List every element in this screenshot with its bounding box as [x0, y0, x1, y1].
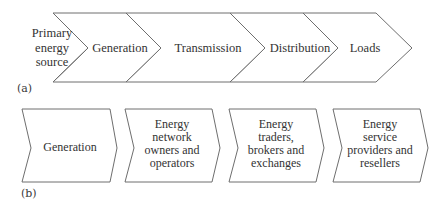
stage-transmission-label: Transmission	[175, 41, 243, 55]
stage-b-traders-line3: brokers and	[248, 143, 304, 157]
stage-b-network-line3: owners and	[145, 143, 200, 157]
panel-b-label: (b)	[21, 187, 37, 200]
stage-generation-label: Generation	[92, 41, 148, 55]
stage-b-service-line1: Energy	[363, 117, 397, 131]
stage-b-network-line1: Energy	[155, 117, 189, 131]
stage-b-generation-label: Generation	[43, 140, 96, 154]
stage-loads-label: Loads	[350, 41, 381, 55]
panel-a-label: (a)	[17, 82, 32, 95]
panel-a: Primary energy source Generation Transmi…	[17, 13, 412, 95]
stage-primary-source-line1: Primary	[32, 26, 73, 40]
panel-b: Generation Energy network owners and ope…	[21, 109, 428, 200]
stage-b-service-line3: providers and	[347, 143, 413, 157]
energy-value-chain-diagram: Primary energy source Generation Transmi…	[0, 0, 448, 203]
stage-b-service-line4: resellers	[360, 156, 400, 170]
stage-b-network-line2: network	[152, 130, 191, 144]
stage-b-service-line2: service	[363, 130, 397, 144]
stage-b-traders-line4: exchanges	[251, 156, 301, 170]
stage-b-traders-line2: traders,	[258, 130, 294, 144]
stage-b-network-line4: operators	[150, 156, 195, 170]
stage-primary-source-line2: energy	[35, 41, 70, 55]
stage-distribution-label: Distribution	[270, 41, 331, 55]
stage-primary-source-line3: source	[36, 55, 69, 69]
stage-b-traders-line1: Energy	[259, 117, 293, 131]
